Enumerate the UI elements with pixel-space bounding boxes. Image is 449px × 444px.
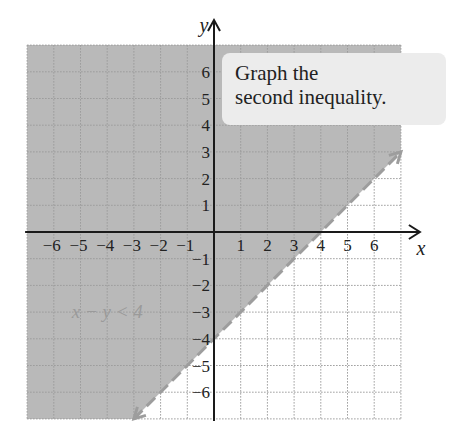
x-tick-label: −5 [69,236,87,255]
x-tick-label: 5 [343,236,352,255]
y-axis-label: y [198,14,209,37]
x-tick-label: −6 [43,236,61,255]
y-tick-label: −6 [192,383,210,402]
y-tick-label: 2 [202,170,211,189]
x-tick-label: −3 [123,236,141,255]
y-tick-label: −2 [192,276,210,295]
instruction-callout: Graph the second inequality. [222,53,446,125]
y-tick-label: −5 [192,357,210,376]
y-tick-label: −1 [192,250,210,269]
callout-line-2: second inequality. [235,85,446,109]
x-tick-label: 2 [263,236,272,255]
graph-figure: xy−6−5−4−3−2−1123456654321−1−2−3−4−5−6 x… [0,0,449,444]
callout-line-1: Graph the [235,61,446,85]
x-tick-label: −4 [96,236,115,255]
y-tick-label: 4 [202,116,211,135]
y-tick-label: 6 [202,63,211,82]
inequality-label: x − y < 4 [71,301,144,322]
y-tick-label: 1 [202,196,211,215]
x-tick-label: 4 [317,236,326,255]
x-tick-label: −2 [150,236,168,255]
y-tick-label: −4 [192,330,211,349]
y-tick-label: 5 [202,90,211,109]
y-tick-label: −3 [192,303,210,322]
y-tick-label: 3 [202,143,211,162]
x-axis-label: x [415,237,425,259]
x-tick-label: 1 [236,236,245,255]
x-tick-label: 6 [370,236,379,255]
x-tick-label: 3 [290,236,299,255]
